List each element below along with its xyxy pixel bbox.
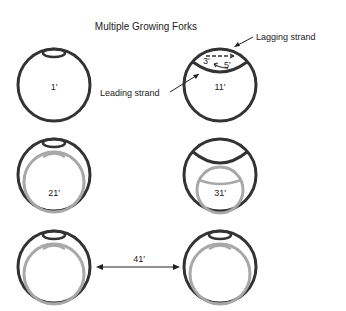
- stage-41-chromosome-left: [18, 231, 90, 304]
- stage-1-label: 1′: [51, 82, 58, 92]
- stage-41-label: 41′: [133, 254, 145, 264]
- stage-21-label: 21′: [48, 188, 60, 198]
- replication-diagram: Multiple Growing Forks 1′ 3′ 5′ 11′ Lead…: [0, 0, 346, 311]
- stage-11-chromosome: 3′ 5′ 11′: [184, 49, 256, 121]
- stage-31-chromosome: 31′: [184, 139, 256, 213]
- lagging-strand-label: Lagging strand: [256, 32, 316, 42]
- leading-strand-label: Leading strand: [100, 88, 160, 98]
- diagram-title: Multiple Growing Forks: [95, 21, 197, 32]
- stage-31-label: 31′: [214, 188, 226, 198]
- five-prime-label: 5′: [224, 60, 231, 70]
- division-arrow: 41′: [96, 254, 180, 270]
- stage-21-chromosome: 21′: [18, 139, 90, 212]
- stage-41-chromosome-right: [184, 231, 256, 304]
- stage-1-chromosome: 1′: [18, 49, 90, 121]
- stage-11-label: 11′: [214, 82, 225, 92]
- three-prime-label: 3′: [203, 56, 210, 66]
